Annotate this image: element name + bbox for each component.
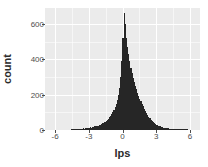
x-tick-label: 3	[154, 132, 158, 141]
y-axis-title-text: count	[1, 54, 13, 84]
x-tick-mark	[89, 130, 90, 133]
y-tick-mark	[42, 130, 45, 131]
plot-panel	[45, 8, 200, 130]
histogram-bar	[186, 129, 187, 130]
y-tick-mark	[42, 95, 45, 96]
x-tick-mark	[123, 130, 124, 133]
y-tick-mark	[42, 59, 45, 60]
y-tick-mark	[42, 24, 45, 25]
x-tick-mark	[55, 130, 56, 133]
y-axis-title: count	[0, 0, 14, 138]
x-tick-mark	[190, 130, 191, 133]
x-axis-title: lps	[45, 147, 200, 159]
x-tick-label: 0	[120, 132, 124, 141]
x-tick-label: 6	[188, 132, 192, 141]
x-tick-mark	[156, 130, 157, 133]
x-tick-label: -6	[52, 132, 59, 141]
histogram-chart: count 0200400600 -6-3036 lps	[0, 0, 208, 167]
x-tick-label: -3	[85, 132, 92, 141]
histogram-bars	[45, 8, 200, 130]
